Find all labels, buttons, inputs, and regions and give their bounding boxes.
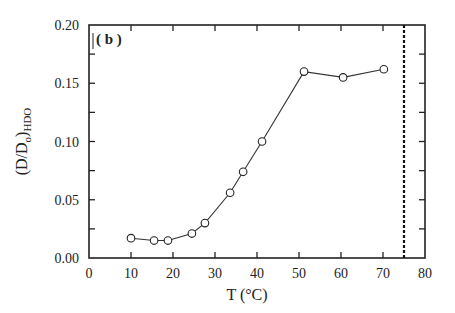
chart: 010203040506070800.000.050.100.150.20 ( … [0,0,455,313]
data-point [380,65,388,73]
y-axis-title: (D/Do)HDO [13,108,33,176]
y-tick-label: 0.00 [55,251,80,266]
x-tick-label: 60 [334,266,348,281]
data-point [239,168,247,176]
x-tick-label: 50 [292,266,306,281]
x-tick-label: 80 [418,266,432,281]
y-tick-label: 0.15 [55,76,80,91]
data-point [226,189,234,197]
data-point [300,68,308,76]
x-tick-label: 40 [250,266,264,281]
y-axis-title-sub: HDO [21,108,33,132]
data-point [188,230,196,238]
x-axis-title: T (°C) [226,286,267,304]
y-tick-label: 0.10 [55,135,80,150]
data-point [339,74,347,82]
y-axis-title-main: (D/D [13,142,31,175]
x-tick-label: 10 [124,266,138,281]
data-point [164,237,172,245]
data-point [258,138,266,146]
x-tick-label: 30 [208,266,222,281]
panel-label: ( b ) [96,31,122,48]
x-tick-label: 70 [376,266,390,281]
plot-frame [89,25,425,258]
data-point [201,219,209,227]
x-tick-label: 20 [166,266,180,281]
x-tick-label: 0 [86,266,93,281]
data-point [150,237,158,245]
y-tick-label: 0.20 [55,18,80,33]
data-point [127,234,135,242]
series-line [131,69,384,240]
y-tick-label: 0.05 [55,193,80,208]
